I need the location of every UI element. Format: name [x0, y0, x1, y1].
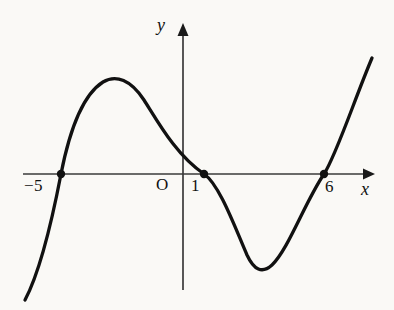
root-marker-neg5	[57, 170, 65, 178]
plot-canvas	[0, 0, 394, 310]
y-axis-label: y	[157, 16, 165, 34]
origin-label: O	[156, 176, 168, 193]
cubic-graph-figure: y x O −5 1 6	[0, 0, 394, 310]
x-axis-label: x	[361, 180, 369, 198]
root-marker-one	[200, 170, 208, 178]
x-tick-label-neg5: −5	[24, 177, 43, 194]
x-tick-label-one: 1	[191, 177, 200, 194]
y-axis-arrowhead	[178, 23, 189, 36]
x-axis-arrowhead	[363, 169, 375, 180]
x-tick-label-six: 6	[325, 178, 334, 195]
